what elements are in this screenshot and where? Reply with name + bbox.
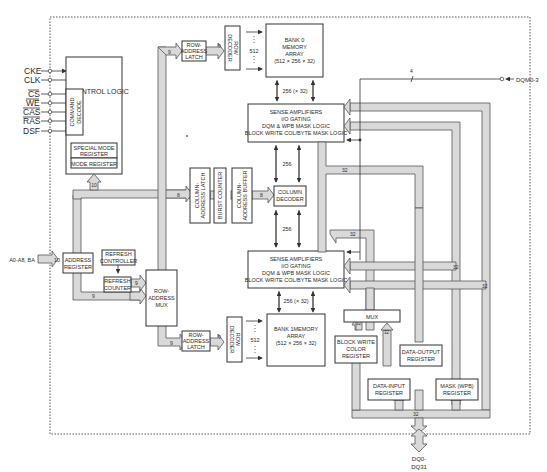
row-decoder-bot-label-2: DECODER — [229, 326, 235, 354]
sense-top-label-3: DQM & WPB MASK LOGIC — [262, 123, 330, 129]
bank1-label-3: (512 × 256 × 32) — [276, 340, 317, 346]
bank1-cols-label: 256 (× 32) — [283, 298, 308, 304]
rows-top-label: 512 — [249, 48, 258, 54]
row-address-mux-label-1: ROW- — [154, 288, 169, 294]
mode-register-label: MODE REGISTER — [71, 161, 117, 167]
command-decode-label-1: COMMAND — [69, 97, 75, 126]
dqm-wire: 4 DQM0-3 — [347, 68, 539, 260]
bus-label-32-b: 32 — [350, 231, 356, 237]
bank1-label-2: ARRAY — [287, 333, 306, 339]
row-address-latch-bot-label-3: LATCH — [187, 344, 205, 350]
row-address-mux-label-3: MUX — [155, 302, 168, 308]
dqm-width-label: 4 — [410, 68, 413, 74]
bank0-label-4: (512 × 256 × 32) — [274, 58, 315, 64]
bus-label-32-d: 32 — [482, 283, 488, 289]
sgram-block-diagram: CKE CLK CS WE CAS RAS DSF CONTROL LOGIC … — [0, 0, 547, 472]
address-register-block — [63, 253, 93, 273]
coldec-bot-label: 256 — [282, 226, 291, 232]
sense-top-label-1: SENSE AMPLIFIERS — [270, 109, 323, 115]
bank0-cols-label: 256 (× 32) — [282, 88, 307, 94]
sense-top-label-2: I/O GATING — [281, 116, 311, 122]
dq-label-1: DQ0- — [412, 456, 426, 462]
special-mode-register-label-1: SPECIAL MODE — [73, 145, 114, 151]
sense-bot-label-4: BLOCK WRITE COL/BYTE MASK LOGIC — [245, 277, 347, 283]
sense-bot-label-1: SENSE AMPLIFIERS — [270, 256, 323, 262]
pin-ras: RAS — [23, 116, 41, 126]
sense-bot-label-3: DQM & WPB MASK LOGIC — [262, 270, 330, 276]
bus-label-to-row-latch-bot: 9 — [170, 340, 173, 346]
bank0-label-1: BANK 0 — [285, 37, 305, 43]
sense-top-label-4: BLOCK WRITE COL/BYTE MASK LOGIC — [245, 130, 347, 136]
bank1-label-1: BANK 1MEMORY — [274, 326, 319, 332]
block-write-color-label-1: BLOCK WRITE — [337, 339, 375, 345]
command-decode-label-2: DECODE — [76, 100, 82, 124]
column-address-buffer-label-2: ADDRESS BUFFER — [242, 170, 248, 220]
refresh-counter-label-1: REFRESH — [104, 278, 130, 284]
address-input-label: A0-A8, BA — [9, 257, 35, 263]
address-register-label-2: REGISTER — [64, 264, 92, 270]
refresh-counter-label-2: COUNTER — [104, 285, 131, 291]
dq-label-2: DQ31 — [411, 464, 427, 470]
column-decoder-label-2: DECODER — [276, 196, 304, 202]
block-write-color-label-3: REGISTER — [342, 353, 370, 359]
data-output-label-2: REGISTER — [407, 356, 435, 362]
block-write-color-label-2: COLOR — [346, 346, 366, 352]
bus-label-to-col-decoder: 8 — [260, 192, 263, 198]
bank0-label-3: ARRAY — [285, 51, 304, 57]
mask-wpb-label-1: MASK (WPB) — [440, 383, 473, 389]
address-register-label-1: ADDRESS — [65, 257, 92, 263]
bus-label-latch-to-dec-top: 9 — [218, 43, 221, 49]
mask-wpb-label-2: REGISTER — [443, 390, 471, 396]
bus-label-32-a: 32 — [342, 167, 348, 173]
pin-clk: CLK — [24, 75, 41, 85]
row-address-mux-label-2: ADDRESS — [148, 295, 175, 301]
special-mode-register-label-2: REGISTER — [80, 151, 108, 157]
control-inputs: CKE CLK CS WE CAS RAS DSF — [23, 66, 42, 136]
dqm-input-label: DQM0-3 — [516, 77, 539, 83]
bus-label-to-col-latch: 8 — [177, 192, 180, 198]
bus-label-addr-to-mux: 9 — [92, 293, 95, 299]
row-address-latch-top-label-3: LATCH — [185, 54, 203, 60]
bus-label-32-c: 32 — [453, 264, 459, 270]
bus-label-latch-to-dec-bot: 9 — [218, 334, 221, 340]
rows-bot-label: 512 — [250, 337, 259, 343]
bank0-label-2: MEMORY — [282, 44, 307, 50]
column-decoder-label-1: COLUMN — [278, 189, 302, 195]
burst-counter-label: BURST COUNTER — [217, 172, 223, 219]
bus-label-to-mode: 10 — [91, 182, 97, 188]
coldec-top-label: 256 — [282, 161, 291, 167]
bus-label-32-g: 32 — [413, 411, 419, 417]
bus-label-32-f: 32 — [384, 330, 390, 335]
sense-bot-label-2: I/O GATING — [281, 263, 311, 269]
data-input-label-2: REGISTER — [375, 390, 403, 396]
bus-label-refresh-to-mux: 9 — [135, 280, 138, 286]
stray-dot — [186, 135, 188, 137]
column-address-latch-label-2: ADDRESS LATCH — [200, 173, 206, 219]
row-decoder-top-label-2: DECODER — [227, 34, 233, 62]
data-input-label-1: DATA-INPUT — [373, 383, 406, 389]
mux-label: MUX — [366, 314, 379, 320]
bus-label-addr-in: 10 — [54, 257, 60, 263]
refresh-controller-label-2: CONTROLLER — [100, 258, 138, 264]
data-output-label-1: DATA-OUTPUT — [402, 349, 441, 355]
refresh-controller-label-1: REFRESH — [105, 251, 131, 257]
pin-dsf: DSF — [23, 126, 40, 136]
bus-label-to-row-latch-top: 9 — [168, 49, 171, 55]
